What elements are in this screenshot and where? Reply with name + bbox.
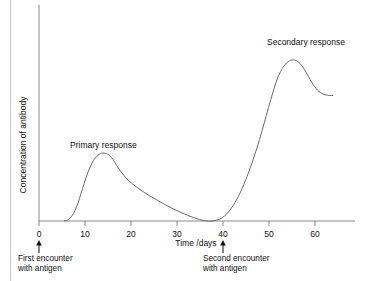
first-encounter-arrow-icon: [36, 240, 42, 253]
x-tick-label-20: 20: [126, 229, 136, 239]
primary-response-label: Primary response: [70, 140, 137, 150]
second-encounter-arrow-icon: [220, 240, 226, 253]
antibody-response-chart: 0 10 20 30 40 50 60 Time /days Concentra…: [0, 0, 369, 281]
secondary-response-label: Secondary response: [267, 37, 345, 47]
second-encounter-caption-line2: with antigen: [202, 264, 247, 273]
x-axis-title: Time /days: [175, 238, 216, 248]
x-tick-label-10: 10: [80, 229, 90, 239]
y-axis-title: Concentration of antibody: [18, 96, 28, 194]
antibody-response-figure: 0 10 20 30 40 50 60 Time /days Concentra…: [0, 0, 369, 281]
first-encounter-caption-line1: First encounter: [18, 254, 73, 263]
second-encounter-caption-line1: Second encounter: [203, 254, 270, 263]
x-tick-label-40: 40: [218, 229, 228, 239]
x-tick-label-60: 60: [310, 229, 320, 239]
x-tick-label-0: 0: [37, 229, 42, 239]
first-encounter-caption-line2: with antigen: [17, 264, 62, 273]
x-axis-ticks: [39, 221, 315, 226]
x-tick-label-50: 50: [264, 229, 274, 239]
